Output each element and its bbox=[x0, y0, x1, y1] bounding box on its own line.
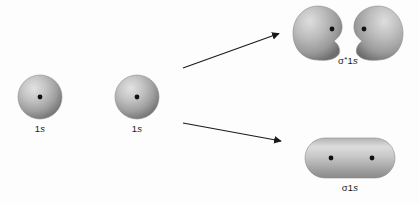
capsule-shape bbox=[305, 138, 395, 178]
nucleus-dot bbox=[38, 95, 43, 100]
antibonding-lobe-right bbox=[354, 6, 403, 60]
atomic-orbital-left-1s bbox=[18, 75, 62, 119]
lobe-shape bbox=[354, 6, 403, 60]
nucleus-dot bbox=[330, 27, 335, 32]
nucleus-dot bbox=[135, 95, 140, 100]
atomic-orbital-right-1s bbox=[115, 75, 159, 119]
label-atomic-orbital-left-1s: 1s bbox=[28, 124, 52, 134]
bonding-orbital-capsule bbox=[305, 138, 395, 178]
label-bonding-orbital: σ1s bbox=[327, 183, 373, 193]
lobe-shape bbox=[293, 6, 342, 60]
orbital-graphics-layer bbox=[0, 0, 419, 204]
antibonding-lobe-left bbox=[293, 6, 342, 60]
label-antibonding-orbital: σ*1s bbox=[325, 56, 371, 66]
arrow-to-antibonding bbox=[183, 34, 279, 69]
nucleus-dot-left bbox=[329, 156, 334, 161]
label-atomic-orbital-right-1s: 1s bbox=[125, 124, 149, 134]
arrow-to-bonding bbox=[183, 123, 281, 141]
nucleus-dot bbox=[362, 27, 367, 32]
nucleus-dot-right bbox=[370, 156, 375, 161]
orbital-diagram: 1s 1s σ*1s σ1s bbox=[0, 0, 419, 204]
